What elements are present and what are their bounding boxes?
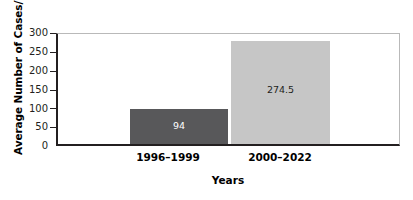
y-tick-label-200: 200 <box>2 66 48 76</box>
y-tick-label-200-wrap: 200 <box>0 66 48 76</box>
y-tick-label-150-wrap: 150 <box>0 85 48 95</box>
bar-value-1996-1999: 94 <box>130 121 228 131</box>
y-tick-label-50: 50 <box>2 122 48 132</box>
y-tick-label-250: 250 <box>2 47 48 57</box>
plot-area: 94 274.5 <box>56 33 400 146</box>
bar-1996-1999[interactable]: 94 <box>130 109 228 144</box>
y-tick-label-50-wrap: 50 <box>0 122 48 132</box>
x-axis-title: Years <box>56 174 400 186</box>
y-tick-label-0-wrap: 0 <box>0 141 48 151</box>
y-tick-label-300: 300 <box>2 28 48 38</box>
y-tick-label-150: 150 <box>2 85 48 95</box>
y-tick-label-0: 0 <box>2 141 48 151</box>
y-tick-label-250-wrap: 250 <box>0 47 48 57</box>
bar-value-2000-2022: 274.5 <box>231 85 330 95</box>
bar-chart-figure: Average Number of Cases/Year 300 250 200… <box>0 0 413 200</box>
y-tick-label-100-wrap: 100 <box>0 104 48 114</box>
y-tick-label-100: 100 <box>2 104 48 114</box>
x-category-label-2000-2022: 2000–2022 <box>200 151 360 163</box>
y-tick-label-300-wrap: 300 <box>0 28 48 38</box>
bar-2000-2022[interactable]: 274.5 <box>231 41 330 144</box>
